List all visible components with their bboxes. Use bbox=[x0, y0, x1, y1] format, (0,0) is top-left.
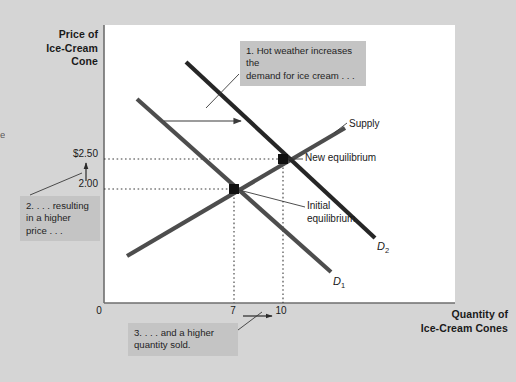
initial-equilibrium-label: Initial equilibrium bbox=[307, 200, 355, 225]
initial-equilibrium-label-line-2: equilibrium bbox=[307, 213, 355, 226]
callout-1-leader bbox=[206, 74, 239, 108]
y-tick-label-250: $2.50 bbox=[44, 148, 98, 159]
callout-3-line-1: 3. . . . and a higher bbox=[134, 327, 232, 339]
callout-2-line-2: in a higher bbox=[26, 212, 94, 224]
callout-1-line-1: 1. Hot weather increases the bbox=[246, 45, 360, 70]
initial-equilibrium-label-line-1: Initial bbox=[307, 200, 355, 213]
supply-curve-label: Supply bbox=[349, 118, 380, 129]
x-axis-title-line-1: Quantity of bbox=[388, 308, 508, 322]
new-equilibrium-label: New equilibrium bbox=[305, 152, 376, 163]
initial-equilibrium-point bbox=[229, 184, 239, 194]
demand-d1-letter: D bbox=[333, 275, 341, 287]
callout-1-line-2: demand for ice cream . . . bbox=[246, 70, 360, 82]
callout-2-line-3: price . . . bbox=[26, 225, 94, 237]
y-tick-label-200: 2.00 bbox=[44, 178, 98, 189]
callout-3-leader bbox=[238, 312, 262, 330]
callout-higher-price: 2. . . . resulting in a higher price . .… bbox=[20, 196, 100, 241]
callout-3-line-2: quantity sold. bbox=[134, 339, 232, 351]
y-axis-title-line-3: Cone bbox=[10, 55, 98, 69]
x-axis-title: Quantity of Ice-Cream Cones bbox=[388, 308, 508, 335]
demand-d2-letter: D bbox=[377, 240, 385, 252]
y-axis-title-line-2: Ice-Cream bbox=[10, 42, 98, 56]
demand-curve-d2-label: D2 bbox=[377, 240, 389, 255]
callout-hot-weather: 1. Hot weather increases the demand for … bbox=[240, 41, 366, 86]
supply-demand-figure: e Price of Ice-Cream Cone Quantity of Ic… bbox=[0, 0, 516, 382]
demand-curve-d1-label: D1 bbox=[333, 275, 345, 290]
y-axis-title-line-1: Price of bbox=[10, 28, 98, 42]
x-axis-title-line-2: Ice-Cream Cones bbox=[388, 322, 508, 336]
y-axis-title: Price of Ice-Cream Cone bbox=[10, 28, 98, 69]
demand-d1-subscript: 1 bbox=[341, 281, 345, 290]
callout-higher-quantity: 3. . . . and a higher quantity sold. bbox=[128, 323, 238, 356]
callout-2-line-1: 2. . . . resulting bbox=[26, 200, 94, 212]
x-tick-label-10: 10 bbox=[272, 305, 290, 316]
x-tick-label-0: 0 bbox=[92, 305, 106, 316]
x-tick-label-7: 7 bbox=[226, 305, 240, 316]
margin-text-fragment: e bbox=[0, 129, 5, 140]
demand-d2-subscript: 2 bbox=[385, 246, 389, 255]
new-equilibrium-point bbox=[278, 154, 288, 164]
